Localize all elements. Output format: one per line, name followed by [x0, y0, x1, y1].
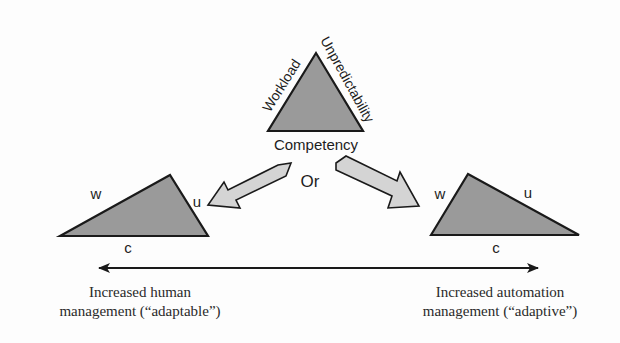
caption-human-management: Increased human management (“adaptable”) — [40, 283, 240, 321]
diagram-canvas: Workload Unpredictability Competency Or … — [0, 0, 620, 343]
right-triangle-shape — [431, 174, 579, 235]
left-triangle-shape — [60, 175, 208, 236]
right-label-c: c — [492, 239, 500, 256]
caption-right-line2: management (“adaptive”) — [395, 302, 605, 321]
label-competency: Competency — [274, 136, 359, 153]
left-label-w: w — [90, 185, 102, 202]
caption-right-line1: Increased automation — [395, 283, 605, 302]
arrow-down-right-icon — [336, 156, 419, 208]
arrow-down-left-icon — [208, 163, 291, 208]
caption-left-line1: Increased human — [40, 283, 240, 302]
label-or: Or — [301, 172, 320, 191]
right-label-u: u — [524, 184, 532, 201]
right-block-arrow — [336, 156, 419, 208]
right-label-w: w — [434, 185, 446, 202]
left-block-arrow — [208, 163, 291, 208]
caption-left-line2: management (“adaptable”) — [40, 302, 240, 321]
top-triangle: Workload Unpredictability Competency — [259, 34, 378, 153]
left-triangle: w u c — [60, 175, 208, 256]
left-label-u: u — [193, 193, 201, 210]
caption-automation-management: Increased automation management (“adapti… — [395, 283, 605, 321]
left-label-c: c — [124, 239, 132, 256]
right-triangle: w u c — [431, 174, 579, 256]
